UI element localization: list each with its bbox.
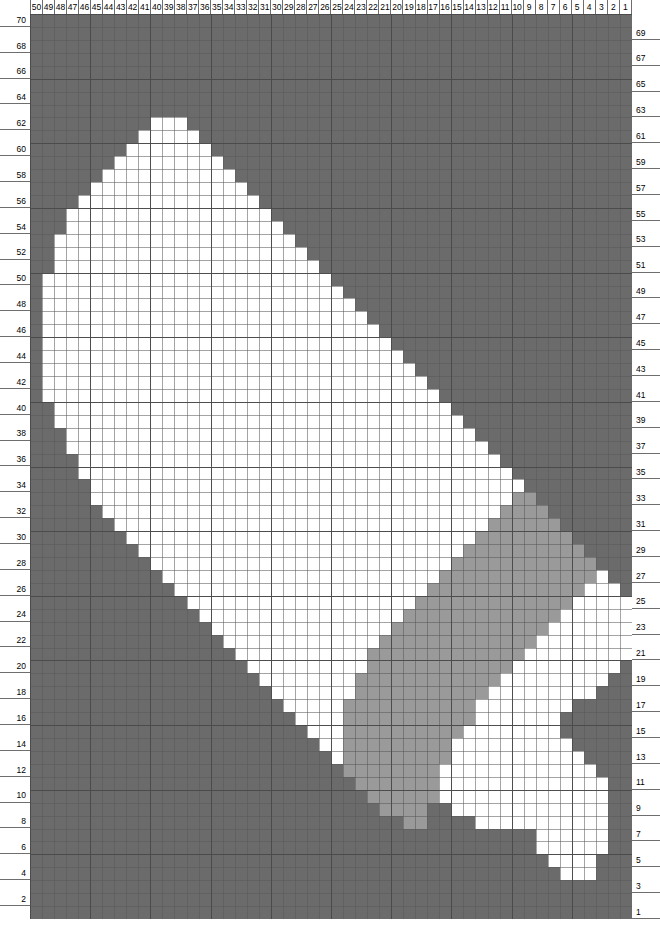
column-label: 26 [319, 0, 331, 14]
column-label: 31 [259, 0, 271, 14]
column-label: 47 [67, 0, 79, 14]
column-label: 50 [30, 0, 43, 14]
row-label-right: 9 [632, 803, 660, 816]
row-label-right: 55 [632, 208, 660, 221]
column-label: 9 [524, 0, 536, 14]
column-label: 5 [572, 0, 584, 14]
row-label-left: 18 [0, 686, 30, 699]
row-label-right: 23 [632, 622, 660, 635]
column-label: 30 [271, 0, 283, 14]
column-label: 49 [43, 0, 55, 14]
column-label: 17 [428, 0, 440, 14]
row-label-right: 1 [632, 906, 660, 919]
column-label: 27 [307, 0, 319, 14]
row-label-right: 5 [632, 854, 660, 867]
column-label: 36 [199, 0, 211, 14]
row-label-right: 41 [632, 389, 660, 402]
row-label-right: 65 [632, 79, 660, 92]
column-label: 20 [391, 0, 403, 14]
row-label-right: 39 [632, 415, 660, 428]
column-label: 13 [476, 0, 488, 14]
column-label: 16 [440, 0, 452, 14]
row-label-right: 33 [632, 492, 660, 505]
row-label-left: 8 [0, 816, 30, 829]
column-label: 18 [416, 0, 428, 14]
column-label: 15 [452, 0, 464, 14]
column-label: 33 [235, 0, 247, 14]
row-label-left: 24 [0, 609, 30, 622]
column-label: 41 [139, 0, 151, 14]
column-label: 14 [464, 0, 476, 14]
row-label-left: 62 [0, 117, 30, 130]
column-label: 4 [584, 0, 596, 14]
row-label-left: 32 [0, 505, 30, 518]
row-label-left: 70 [0, 14, 30, 27]
column-label: 3 [596, 0, 608, 14]
column-label: 35 [211, 0, 223, 14]
column-label: 32 [247, 0, 259, 14]
column-label: 10 [512, 0, 524, 14]
row-label-left: 30 [0, 531, 30, 544]
row-label-right: 17 [632, 699, 660, 712]
row-label-right: 35 [632, 467, 660, 480]
row-label-left: 28 [0, 557, 30, 570]
row-label-left: 68 [0, 40, 30, 53]
column-label: 12 [488, 0, 500, 14]
column-label: 7 [548, 0, 560, 14]
row-label-right: 57 [632, 182, 660, 195]
column-label: 23 [355, 0, 367, 14]
row-label-left: 22 [0, 635, 30, 648]
row-label-left: 10 [0, 790, 30, 803]
row-label-left: 38 [0, 428, 30, 441]
column-label: 40 [151, 0, 163, 14]
row-label-left: 36 [0, 454, 30, 467]
column-label: 19 [403, 0, 415, 14]
row-label-left: 54 [0, 221, 30, 234]
row-label-left: 4 [0, 867, 30, 880]
row-label-right: 21 [632, 648, 660, 661]
row-label-right: 63 [632, 105, 660, 118]
row-label-right: 19 [632, 673, 660, 686]
row-label-right: 11 [632, 777, 660, 790]
row-label-left: 42 [0, 376, 30, 389]
row-label-left: 16 [0, 712, 30, 725]
row-label-left: 20 [0, 660, 30, 673]
row-label-left: 56 [0, 195, 30, 208]
column-label: 34 [223, 0, 235, 14]
column-label: 28 [295, 0, 307, 14]
row-label-right: 15 [632, 725, 660, 738]
column-label: 6 [560, 0, 572, 14]
column-label: 22 [367, 0, 379, 14]
row-label-left: 66 [0, 66, 30, 79]
row-label-left: 58 [0, 169, 30, 182]
row-label-right: 67 [632, 53, 660, 66]
row-labels-left: 7068666462605856545250484644424038363432… [0, 14, 30, 919]
column-label: 38 [175, 0, 187, 14]
column-label: 44 [103, 0, 115, 14]
column-label: 46 [79, 0, 91, 14]
row-label-right: 7 [632, 829, 660, 842]
column-label: 25 [331, 0, 343, 14]
row-label-left: 46 [0, 324, 30, 337]
row-label-left: 26 [0, 583, 30, 596]
row-label-left: 60 [0, 143, 30, 156]
column-label: 39 [163, 0, 175, 14]
row-label-right: 61 [632, 130, 660, 143]
row-label-right: 27 [632, 570, 660, 583]
column-label: 8 [536, 0, 548, 14]
row-label-right: 3 [632, 880, 660, 893]
column-label: 42 [127, 0, 139, 14]
column-label: 11 [500, 0, 512, 14]
row-label-left: 44 [0, 350, 30, 363]
row-label-left: 40 [0, 402, 30, 415]
column-label: 48 [55, 0, 67, 14]
column-header-row: 5049484746454443424140393837363534333231… [30, 0, 632, 14]
row-label-right: 45 [632, 337, 660, 350]
pattern-grid[interactable] [30, 14, 632, 919]
column-label: 2 [608, 0, 620, 14]
row-labels-right: 6967656361595755535149474543413937353331… [632, 14, 660, 919]
row-label-right: 25 [632, 596, 660, 609]
stitch-pattern-chart: 5049484746454443424140393837363534333231… [0, 0, 660, 935]
row-label-left: 6 [0, 841, 30, 854]
row-label-right: 53 [632, 234, 660, 247]
